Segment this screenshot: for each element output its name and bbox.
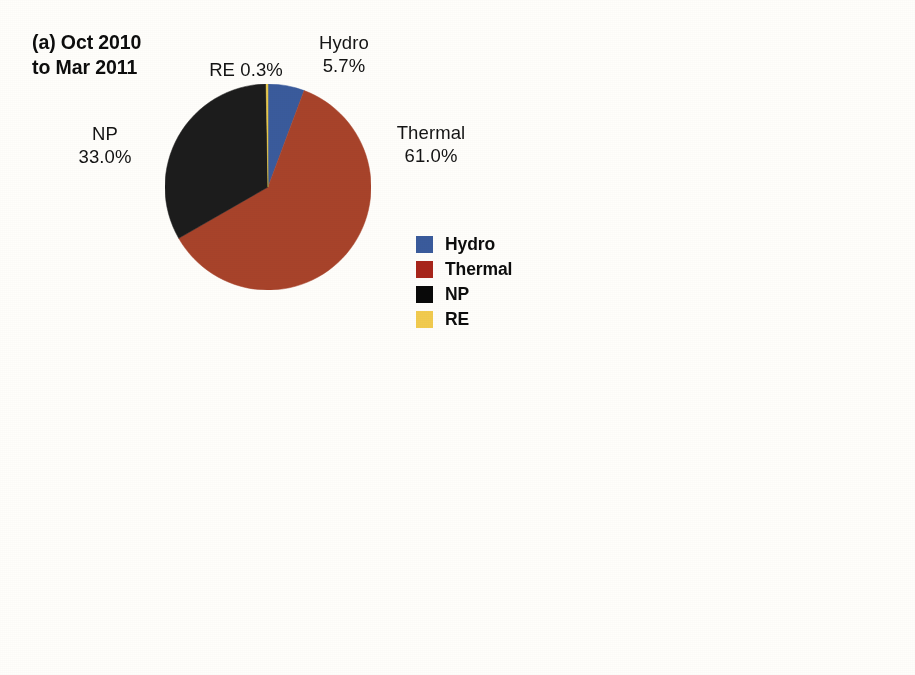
pie-a-label-hydro: Hydro 5.7% [299,31,389,77]
pie-a-label-np: NP 33.0% [62,122,148,168]
legend-label-hydro: Hydro [445,234,495,255]
pie-chart-a [165,84,371,290]
pie-panel-c: (c) Oct 2011 to Mar 2012 NP 6.8% RE 0.3%… [0,335,460,675]
panel-a-title: (a) Oct 2010 to Mar 2011 [32,30,141,80]
pie-panel-d: (d) Apr 2012 to Sep 2012 NP 1.4% RE 0.4%… [455,335,915,675]
legend-item-thermal: Thermal [416,257,526,281]
legend-swatch-np [416,286,433,303]
pie-a-label-re: RE 0.3% [196,58,296,81]
legend-item-re: RE [416,307,526,331]
legend-swatch-re [416,311,433,328]
legend-swatch-thermal [416,261,433,278]
legend-label-re: RE [445,309,469,330]
chart-legend: HydroThermalNPRE [416,232,526,332]
legend-item-np: NP [416,282,526,306]
pie-panel-a: (a) Oct 2010 to Mar 2011 RE 0.3% Hydro 5… [0,0,460,340]
legend-swatch-hydro [416,236,433,253]
pie-svg [165,84,371,290]
legend-label-thermal: Thermal [445,259,512,280]
figure-canvas: (a) Oct 2010 to Mar 2011 RE 0.3% Hydro 5… [0,0,915,675]
legend-item-hydro: Hydro [416,232,526,256]
legend-label-np: NP [445,284,469,305]
